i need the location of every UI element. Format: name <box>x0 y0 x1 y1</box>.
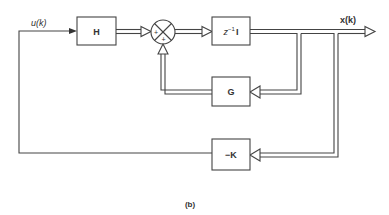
state-signal-label: x(k) <box>340 15 356 25</box>
arrow-into-k-icon <box>250 149 260 161</box>
block-g: G <box>212 77 250 106</box>
arrow-head-icon <box>69 28 77 34</box>
vector-arrow-g-to-sum <box>158 44 212 94</box>
input-signal-label: u(k) <box>31 18 47 28</box>
block-h: H <box>77 17 116 45</box>
block-k-label: −K <box>225 150 237 160</box>
block-diagram: u(k) H + + z−1I x(k) <box>0 0 389 215</box>
figure-caption: (b) <box>185 200 196 209</box>
block-g-label: G <box>227 87 234 97</box>
block-h-label: H <box>93 27 100 37</box>
block-delay: z−1I <box>212 17 250 45</box>
summing-junction: + + <box>151 20 175 44</box>
sum-sign-left: + <box>154 29 158 36</box>
vector-arrow-sum-to-delay <box>175 27 212 37</box>
state-output-line <box>250 27 375 158</box>
sum-sign-bottom: + <box>161 36 165 43</box>
block-k: −K <box>212 139 250 170</box>
arrow-into-g-icon <box>250 86 260 98</box>
vector-arrow-h-to-sum <box>116 27 151 37</box>
